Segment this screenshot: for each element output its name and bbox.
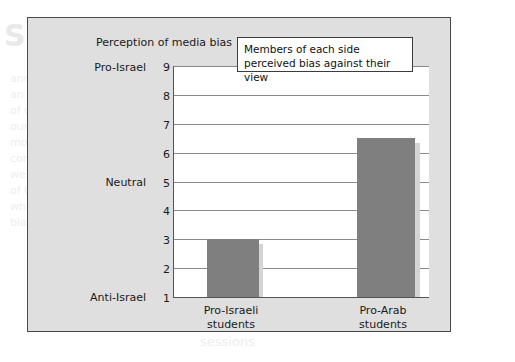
y-axis-anchor-label-neutral: Neutral [60,177,146,188]
chart-title: Perception of media bias [96,36,232,49]
x-axis-label-pro-arab-students: Pro-Arab students [328,304,438,332]
chart-annotation-callout: Members of each side perceived bias agai… [237,37,413,72]
y-axis-tick-8: 8 [148,91,170,102]
gridline-8 [174,95,429,96]
y-axis-tick-3: 3 [148,235,170,246]
y-axis-tick-7: 7 [148,120,170,131]
y-axis-tick-4: 4 [148,206,170,217]
y-axis-tick-1: 1 [148,293,170,304]
x-axis-label-line: Pro-Arab [328,304,438,318]
y-axis-tick-2: 2 [148,264,170,275]
y-axis-tick-9: 9 [148,62,170,73]
x-axis-label-line: students [328,318,438,332]
gridline-7 [174,124,429,125]
y-axis-anchor-label-pro-israel: Pro-Israel [60,62,146,73]
bar-pro-arab-students[interactable] [357,138,415,297]
x-axis-label-line: students [176,318,286,332]
y-axis-anchor-label-anti-israel: Anti-Israel [60,292,146,303]
x-axis-label-pro-israeli-students: Pro-Israeli students [176,304,286,332]
y-axis-tick-5: 5 [148,178,170,189]
bleed-footer-line: sessions [200,334,255,349]
y-axis-tick-6: 6 [148,149,170,160]
plot-area [173,66,429,298]
bar-pro-israeli-students[interactable] [207,239,259,297]
x-axis-label-line: Pro-Israeli [176,304,286,318]
chart-figure-panel: Perception of media bias Pro-Israel Neut… [27,17,451,332]
